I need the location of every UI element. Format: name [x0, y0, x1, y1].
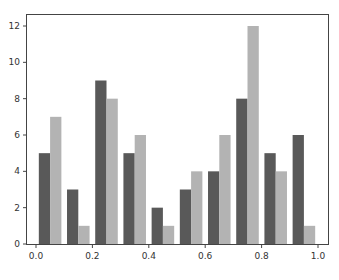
x-tick-label: 0.8: [254, 251, 269, 261]
y-tick-label: 4: [14, 166, 20, 176]
bar-series-1-8: [264, 153, 275, 244]
bar-series-2-9: [304, 226, 315, 244]
bar-series-2-0: [50, 117, 61, 244]
y-tick-label: 0: [14, 239, 20, 249]
bar-series-2-4: [163, 226, 174, 244]
bar-series-1-3: [123, 153, 134, 244]
bar-series-2-6: [219, 135, 230, 244]
x-tick-label: 0.2: [85, 251, 99, 261]
bar-series-1-2: [95, 81, 106, 245]
y-tick-label: 12: [9, 21, 20, 31]
bar-series-1-1: [67, 190, 78, 245]
y-axis: 024681012: [9, 21, 27, 249]
bar-series-1-5: [180, 190, 191, 245]
bar-series-1-0: [39, 153, 50, 244]
x-tick-label: 0.4: [142, 251, 157, 261]
bar-series-1-7: [236, 99, 247, 244]
y-tick-label: 10: [9, 57, 21, 67]
bar-series-2-1: [78, 226, 89, 244]
x-axis: 0.00.20.40.60.81.0: [29, 245, 326, 262]
bar-series-1-9: [293, 135, 304, 244]
bar-series-2-2: [107, 99, 118, 244]
y-tick-label: 2: [14, 203, 20, 213]
y-tick-label: 6: [14, 130, 20, 140]
bar-chart: 024681012 0.00.20.40.60.81.0: [0, 0, 339, 280]
bar-series-2-8: [276, 171, 287, 244]
y-tick-label: 8: [14, 94, 20, 104]
bars: [39, 26, 315, 244]
x-tick-label: 0.6: [198, 251, 213, 261]
bar-series-2-7: [248, 26, 259, 244]
bar-series-1-6: [208, 171, 219, 244]
x-tick-label: 0.0: [29, 251, 44, 261]
bar-series-2-5: [191, 171, 202, 244]
bar-series-2-3: [135, 135, 146, 244]
x-tick-label: 1.0: [311, 251, 326, 261]
bar-series-1-4: [152, 208, 163, 244]
